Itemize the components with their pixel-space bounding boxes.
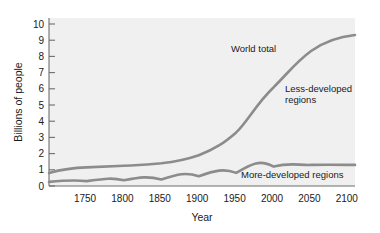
x-tick-label-1750: 1750 — [74, 193, 97, 204]
y-tick-label-5: 5 — [38, 100, 44, 111]
y-tick-label-2: 2 — [38, 148, 44, 159]
x-axis-title: Year — [191, 211, 213, 223]
y-tick-label-3: 3 — [38, 132, 44, 143]
y-tick-label-0: 0 — [38, 181, 44, 192]
x-tick-label-1850: 1850 — [149, 193, 172, 204]
x-tick-label-1900: 1900 — [186, 193, 209, 204]
y-tick-label-7: 7 — [38, 67, 44, 78]
y-axis-title: Billions of people — [12, 62, 24, 142]
y-tick-label-10: 10 — [33, 19, 45, 30]
x-tick-label-1800: 1800 — [111, 193, 134, 204]
x-tick-label-2100: 2100 — [336, 193, 359, 204]
x-tick-label-1950: 1950 — [223, 193, 246, 204]
y-tick-label-9: 9 — [38, 35, 44, 46]
population-projection-chart: 0 1 2 3 4 5 6 7 8 9 10 1750 1800 1850 19… — [0, 0, 380, 233]
y-tick-label-6: 6 — [38, 83, 44, 94]
annotation-less-developed-line1: Less-developed — [285, 83, 352, 94]
y-tick-label-4: 4 — [38, 116, 44, 127]
x-tick-label-2050: 2050 — [298, 193, 321, 204]
annotation-less-developed-line2: regions — [285, 94, 316, 105]
y-tick-label-1: 1 — [38, 164, 44, 175]
annotation-more-developed-regions: More-developed regions — [241, 169, 344, 180]
y-tick-label-8: 8 — [38, 51, 44, 62]
x-tick-label-2000: 2000 — [261, 193, 284, 204]
annotation-world-total: World total — [231, 43, 276, 54]
